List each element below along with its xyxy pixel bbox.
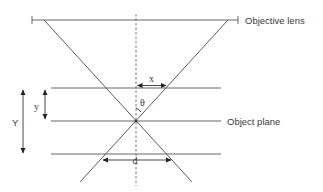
theta-arc: [136, 108, 141, 112]
objective-lens: [32, 16, 238, 24]
focal-point: [135, 120, 138, 123]
ray-right: [80, 20, 228, 182]
theta-label: θ: [140, 97, 145, 108]
y-small-label: y: [34, 101, 39, 112]
ray-left: [44, 20, 192, 182]
object-plane-label: Object plane: [227, 116, 280, 127]
depth-of-field-diagram: Objective lens Object plane x θ y Y d: [0, 0, 323, 192]
d-label: d: [133, 155, 138, 166]
objective-lens-label: Objective lens: [245, 15, 305, 26]
x-label: x: [149, 73, 154, 84]
y-large-label: Y: [12, 117, 19, 128]
